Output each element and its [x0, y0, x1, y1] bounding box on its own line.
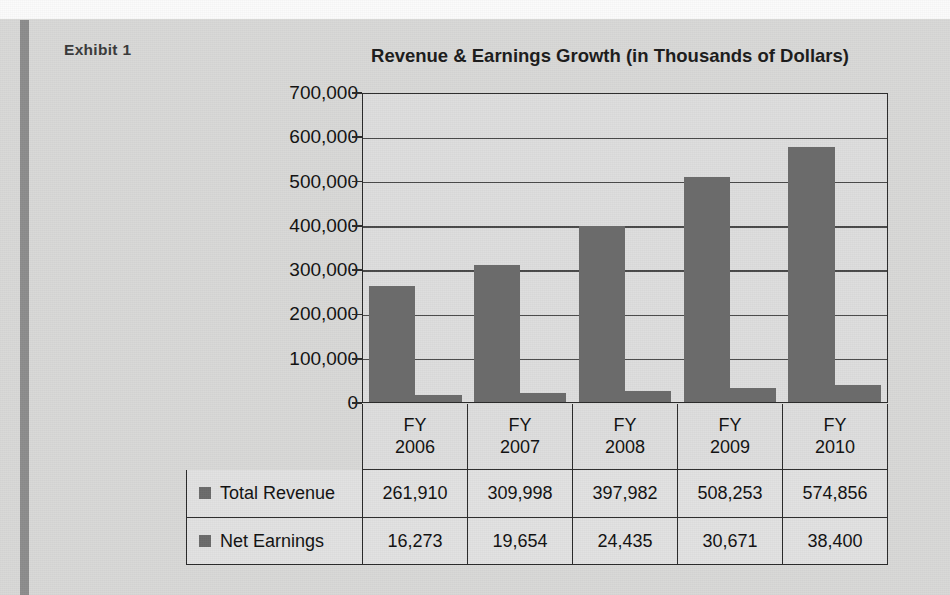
- bar-net-earnings: [520, 393, 566, 402]
- bar-slot: [468, 94, 573, 402]
- y-axis-tick-mark: [352, 92, 362, 94]
- bar-total-revenue: [684, 177, 730, 402]
- y-axis-tick-mark: [352, 358, 362, 360]
- category-label-fy-2008: FY2008: [573, 404, 678, 469]
- bar-slot: [573, 94, 678, 402]
- legend-label: Total Revenue: [220, 483, 335, 504]
- y-axis-tick-mark: [352, 314, 362, 316]
- category-label-fy-2006: FY2006: [363, 404, 468, 469]
- y-axis-tick-marks: [0, 93, 400, 403]
- table-cell: 574,856: [783, 470, 887, 517]
- page: Exhibit 1 Revenue & Earnings Growth (in …: [0, 0, 950, 595]
- category-axis-row: FY2006FY2007FY2008FY2009FY2010: [362, 404, 888, 470]
- category-label-line: FY: [823, 415, 846, 436]
- category-label-fy-2009: FY2009: [678, 404, 783, 469]
- bar-slot: [363, 94, 468, 402]
- category-label-fy-2010: FY2010: [783, 404, 887, 469]
- bar-net-earnings: [835, 385, 881, 402]
- bar-slot: [782, 94, 887, 402]
- category-label-line: FY: [403, 415, 426, 436]
- plot-area: [362, 93, 888, 403]
- table-cell: 38,400: [783, 518, 887, 566]
- legend-item-total-revenue: Total Revenue: [187, 470, 363, 517]
- bar-total-revenue: [788, 147, 834, 402]
- plot-area-wrapper: [362, 93, 888, 403]
- category-label-line: 2006: [395, 437, 435, 458]
- table-cell: 508,253: [678, 470, 783, 517]
- table-cell: 397,982: [573, 470, 678, 517]
- category-label-line: FY: [508, 415, 531, 436]
- table-cell: 24,435: [573, 518, 678, 566]
- bar-net-earnings: [415, 395, 461, 402]
- page-top-margin: [0, 0, 950, 19]
- table-cell: 261,910: [363, 470, 468, 517]
- legend-swatch-icon: [199, 535, 211, 547]
- table-row: Net Earnings16,27319,65424,43530,67138,4…: [187, 518, 887, 566]
- category-label-line: 2009: [710, 437, 750, 458]
- legend-label: Net Earnings: [220, 531, 324, 552]
- category-label-fy-2007: FY2007: [468, 404, 573, 469]
- table-row: Total Revenue261,910309,998397,982508,25…: [187, 470, 887, 518]
- y-axis-tick-mark: [352, 225, 362, 227]
- exhibit-label: Exhibit 1: [64, 41, 131, 59]
- data-table: Total Revenue261,910309,998397,982508,25…: [186, 470, 888, 565]
- category-label-line: FY: [613, 415, 636, 436]
- table-cell: 309,998: [468, 470, 573, 517]
- bar-total-revenue: [369, 286, 415, 402]
- table-cell: 16,273: [363, 518, 468, 566]
- y-axis-tick-mark: [352, 402, 362, 404]
- y-axis-tick-mark: [352, 181, 362, 183]
- table-cell: 19,654: [468, 518, 573, 566]
- category-label-line: 2007: [500, 437, 540, 458]
- chart-title: Revenue & Earnings Growth (in Thousands …: [330, 45, 890, 67]
- y-axis-tick-mark: [352, 136, 362, 138]
- category-label-line: 2010: [815, 437, 855, 458]
- bar-group: [363, 94, 887, 402]
- bar-total-revenue: [474, 265, 520, 402]
- bar-net-earnings: [625, 391, 671, 402]
- legend-swatch-icon: [199, 487, 211, 499]
- table-cell: 30,671: [678, 518, 783, 566]
- category-label-line: 2008: [605, 437, 645, 458]
- legend-item-net-earnings: Net Earnings: [187, 518, 363, 566]
- y-axis-tick-mark: [352, 269, 362, 271]
- bar-net-earnings: [730, 388, 776, 402]
- category-label-line: FY: [718, 415, 741, 436]
- bar-slot: [677, 94, 782, 402]
- bar-total-revenue: [579, 226, 625, 402]
